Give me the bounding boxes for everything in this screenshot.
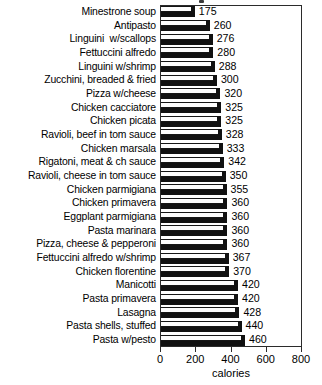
bar-value-label: 367 — [233, 252, 251, 263]
category-label: Chicken picata — [0, 115, 156, 126]
category-label: Fettuccini alfredo — [0, 47, 156, 58]
bar-value-label: 280 — [217, 47, 235, 58]
scan-artifact — [199, 0, 204, 3]
bar — [161, 253, 226, 266]
bar-end-cap — [234, 294, 238, 305]
bar — [161, 212, 224, 225]
bar-value-label: 440 — [246, 320, 264, 331]
bar-end-cap — [223, 198, 227, 209]
bar-shadow-face — [161, 300, 237, 305]
bar-value-label: 260 — [214, 20, 232, 31]
bar-value-label: 320 — [224, 88, 242, 99]
category-label: Rigatoni, meat & ch sauce — [0, 156, 156, 167]
bar-value-label: 360 — [231, 225, 249, 236]
bar-end-cap — [225, 266, 229, 277]
bar-shadow-face — [161, 135, 221, 140]
bar-shadow-face — [161, 327, 241, 332]
bar-value-label: 360 — [231, 211, 249, 222]
category-label: Lasagna — [0, 307, 156, 318]
bar-shadow-face — [161, 286, 237, 291]
bar-end-cap — [217, 116, 221, 127]
bar-value-label: 300 — [221, 74, 239, 85]
category-label: Chicken parmigiana — [0, 184, 156, 195]
bar-end-cap — [235, 307, 239, 318]
bar — [161, 102, 218, 115]
bar — [161, 307, 236, 320]
bar-shadow-face — [161, 218, 226, 223]
category-label: Zucchini, breaded & fried — [0, 74, 156, 85]
bar — [161, 143, 220, 156]
x-tick — [266, 347, 267, 352]
bar-shadow-face — [161, 190, 226, 195]
category-label: Chicken primavera — [0, 197, 156, 208]
x-tick — [301, 347, 302, 352]
x-tick-label: 0 — [157, 353, 163, 365]
bar-value-label: 370 — [233, 266, 251, 277]
bar-end-cap — [223, 184, 227, 195]
bar-shadow-face — [161, 231, 226, 236]
bar-end-cap — [219, 143, 223, 154]
bar-end-cap — [206, 20, 210, 31]
x-tick — [195, 347, 196, 352]
category-label: Linguini w/shrimp — [0, 61, 156, 72]
bar-end-cap — [222, 171, 226, 182]
bar-end-cap — [217, 102, 221, 113]
bar-shadow-face — [161, 12, 194, 17]
bar — [161, 266, 226, 279]
bar-value-label: 175 — [199, 6, 217, 17]
bar — [161, 198, 224, 211]
bar-shadow-face — [161, 259, 228, 264]
bar-end-cap — [220, 157, 224, 168]
category-label: Manicotti — [0, 279, 156, 290]
bar-end-cap — [209, 47, 213, 58]
bar-shadow-face — [161, 26, 209, 31]
category-label: Chicken florentine — [0, 266, 156, 277]
bar-end-cap — [211, 61, 215, 72]
bar-end-cap — [241, 335, 245, 346]
bar — [161, 335, 242, 348]
bar — [161, 47, 210, 60]
bar-shadow-face — [161, 94, 219, 99]
bar-shadow-face — [161, 149, 222, 154]
bar — [161, 321, 239, 334]
category-label: Pasta marinara — [0, 225, 156, 236]
bar — [161, 61, 212, 74]
bar-end-cap — [191, 6, 195, 17]
bar-end-cap — [223, 239, 227, 250]
bar-shadow-face — [161, 272, 228, 277]
category-label: Antipasto — [0, 20, 156, 31]
bar-end-cap — [209, 34, 213, 45]
bar — [161, 184, 224, 197]
bar-end-cap — [238, 321, 242, 332]
bar-value-label: 420 — [242, 293, 260, 304]
category-label: Linguini w/scallops — [0, 33, 156, 44]
bar — [161, 294, 235, 307]
bar-shadow-face — [161, 67, 214, 72]
bar-shadow-face — [161, 341, 244, 346]
bar-shadow-face — [161, 245, 226, 250]
bar — [161, 157, 221, 170]
bar-value-label: 460 — [249, 334, 267, 345]
bar — [161, 34, 210, 47]
bar — [161, 239, 224, 252]
bar-value-label: 428 — [243, 307, 261, 318]
bar — [161, 6, 192, 19]
bar — [161, 225, 224, 238]
bar — [161, 116, 218, 129]
bar — [161, 280, 235, 293]
bar-value-label: 420 — [242, 279, 260, 290]
bar-value-label: 355 — [231, 184, 249, 195]
bar-value-label: 360 — [231, 197, 249, 208]
category-label: Pizza, cheese & pepperoni — [0, 238, 156, 249]
category-axis-labels: Minestrone soupAntipastoLinguini w/scall… — [0, 5, 156, 347]
bar — [161, 129, 219, 142]
bar-end-cap — [223, 225, 227, 236]
x-axis-title: calories — [160, 367, 302, 379]
bar-shadow-face — [161, 313, 238, 318]
bar-value-label: 350 — [230, 170, 248, 181]
x-tick-label: 800 — [292, 353, 310, 365]
bar-value-label: 288 — [219, 61, 237, 72]
bar — [161, 20, 207, 33]
bar-shadow-face — [161, 53, 212, 58]
category-label: Fettuccini alfredo w/shrimp — [0, 252, 156, 263]
